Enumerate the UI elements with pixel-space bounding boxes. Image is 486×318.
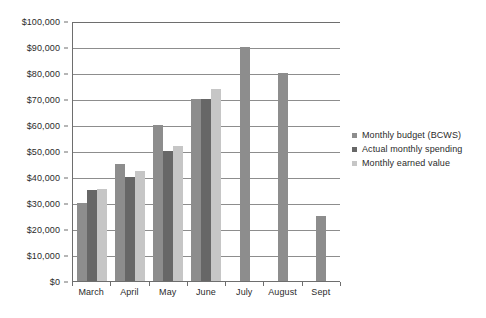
y-tick-mark xyxy=(64,100,68,101)
legend-swatch-icon xyxy=(352,161,357,166)
bar-chart: $0$10,000$20,000$30,000$40,000$50,000$60… xyxy=(0,0,486,318)
y-tick-mark xyxy=(64,48,68,49)
plot-area xyxy=(72,22,340,282)
y-tick-label: $60,000 xyxy=(27,121,60,131)
legend-item[interactable]: Actual monthly spending xyxy=(352,142,484,156)
bar[interactable] xyxy=(211,89,221,281)
x-axis: MarchAprilMayJuneJulyAugustSept xyxy=(72,287,340,297)
bar-group xyxy=(302,22,340,281)
bar[interactable] xyxy=(153,125,163,281)
bar[interactable] xyxy=(163,151,173,281)
bar-group xyxy=(111,22,149,281)
y-tick-mark xyxy=(64,22,68,23)
x-tick-mark xyxy=(302,282,303,286)
y-tick-mark xyxy=(64,152,68,153)
y-tick-mark xyxy=(64,230,68,231)
x-tick-label: March xyxy=(72,287,110,297)
legend-item[interactable]: Monthly earned value xyxy=(352,156,484,170)
x-tick-label: June xyxy=(187,287,225,297)
y-tick-mark xyxy=(64,126,68,127)
x-tick-mark xyxy=(72,282,73,286)
x-tick-label: May xyxy=(149,287,187,297)
y-tick-label: $10,000 xyxy=(27,251,60,261)
y-tick-label: $70,000 xyxy=(27,95,60,105)
y-tick-mark xyxy=(64,204,68,205)
legend-label: Monthly budget (BCWS) xyxy=(362,130,461,140)
x-tick-mark xyxy=(149,282,150,286)
bar-group xyxy=(226,22,264,281)
y-tick-mark xyxy=(64,282,68,283)
bars-layer xyxy=(73,22,340,281)
bar[interactable] xyxy=(173,146,183,281)
x-tick-mark xyxy=(340,282,341,286)
bar[interactable] xyxy=(77,203,87,281)
y-axis: $0$10,000$20,000$30,000$40,000$50,000$60… xyxy=(0,22,68,282)
bar[interactable] xyxy=(316,216,326,281)
bar-group xyxy=(187,22,225,281)
y-tick-label: $20,000 xyxy=(27,225,60,235)
y-tick-mark xyxy=(64,74,68,75)
x-tick-mark xyxy=(187,282,188,286)
bar[interactable] xyxy=(240,47,250,281)
y-tick-label: $0 xyxy=(50,277,60,287)
y-tick-label: $80,000 xyxy=(27,69,60,79)
legend-swatch-icon xyxy=(352,133,357,138)
x-tick-label: August xyxy=(263,287,301,297)
bar[interactable] xyxy=(135,171,145,282)
x-tick-mark xyxy=(263,282,264,286)
bar-group xyxy=(73,22,111,281)
bar-group xyxy=(149,22,187,281)
bar[interactable] xyxy=(201,99,211,281)
legend-label: Monthly earned value xyxy=(362,158,450,168)
y-tick-label: $90,000 xyxy=(27,43,60,53)
y-tick-label: $40,000 xyxy=(27,173,60,183)
x-tick-mark xyxy=(110,282,111,286)
legend-swatch-icon xyxy=(352,147,357,152)
x-tick-mark xyxy=(225,282,226,286)
x-tick-label: Sept xyxy=(302,287,340,297)
y-tick-label: $100,000 xyxy=(22,17,60,27)
bar[interactable] xyxy=(87,190,97,281)
bar[interactable] xyxy=(115,164,125,281)
bar[interactable] xyxy=(278,73,288,281)
y-tick-mark xyxy=(64,178,68,179)
bar[interactable] xyxy=(191,99,201,281)
legend-label: Actual monthly spending xyxy=(362,144,462,154)
y-tick-label: $50,000 xyxy=(27,147,60,157)
y-tick-mark xyxy=(64,256,68,257)
bar[interactable] xyxy=(125,177,135,281)
chart-legend: Monthly budget (BCWS)Actual monthly spen… xyxy=(352,128,484,170)
x-tick-label: July xyxy=(225,287,263,297)
x-tick-label: April xyxy=(110,287,148,297)
bar[interactable] xyxy=(97,189,107,281)
y-tick-label: $30,000 xyxy=(27,199,60,209)
bar-group xyxy=(264,22,302,281)
legend-item[interactable]: Monthly budget (BCWS) xyxy=(352,128,484,142)
